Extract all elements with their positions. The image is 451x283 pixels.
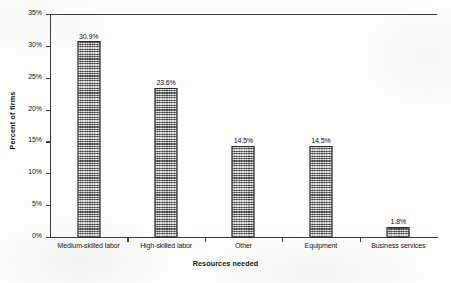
x-axis-tick-mark: [282, 238, 283, 242]
y-axis-tick-label: 5%: [32, 200, 42, 207]
bar-group: 14.5%: [205, 14, 282, 238]
y-axis-tick-label: 35%: [28, 9, 42, 16]
bar-group: 30.9%: [50, 14, 127, 238]
x-axis-category-label: Business services: [371, 242, 425, 249]
bar-value-label: 14.5%: [311, 137, 330, 144]
y-axis-tick-label: 20%: [28, 105, 42, 112]
x-axis-category-label: Equipment: [305, 242, 338, 249]
bar-value-label: 14.5%: [234, 137, 253, 144]
x-axis-tick-mark: [127, 238, 128, 242]
bar: [232, 146, 255, 238]
y-axis-title: Percent of firms: [3, 0, 23, 240]
bar-value-label: 30.9%: [79, 33, 98, 40]
x-axis-category-label: Medium-skilled labor: [58, 242, 120, 249]
bar-group: 23.6%: [127, 14, 204, 238]
bar-group: 14.5%: [282, 14, 359, 238]
y-axis-tick-label: 15%: [28, 136, 42, 143]
bar: [309, 146, 332, 238]
bar-value-label: 1.8%: [391, 218, 407, 225]
bar-chart: Percent of firms 0%5%10%15%20%25%30%35% …: [0, 0, 451, 283]
y-axis-tick-label: 10%: [28, 168, 42, 175]
y-axis-title-text: Percent of firms: [9, 91, 18, 149]
bar: [77, 41, 100, 238]
x-axis-title: Resources needed: [0, 259, 451, 268]
x-axis-category-label: High-skilled labor: [140, 242, 192, 249]
x-axis-tick-mark: [360, 238, 361, 242]
y-axis-tick-label: 30%: [28, 41, 42, 48]
y-axis-tick-label: 25%: [28, 73, 42, 80]
bar: [387, 227, 410, 238]
x-axis-category-label: Other: [235, 242, 252, 249]
bar-value-label: 23.6%: [156, 79, 175, 86]
bar: [155, 88, 178, 238]
y-axis-tick-label: 0%: [32, 232, 42, 239]
bar-group: 1.8%: [360, 14, 437, 238]
x-axis-tick-mark: [205, 238, 206, 242]
